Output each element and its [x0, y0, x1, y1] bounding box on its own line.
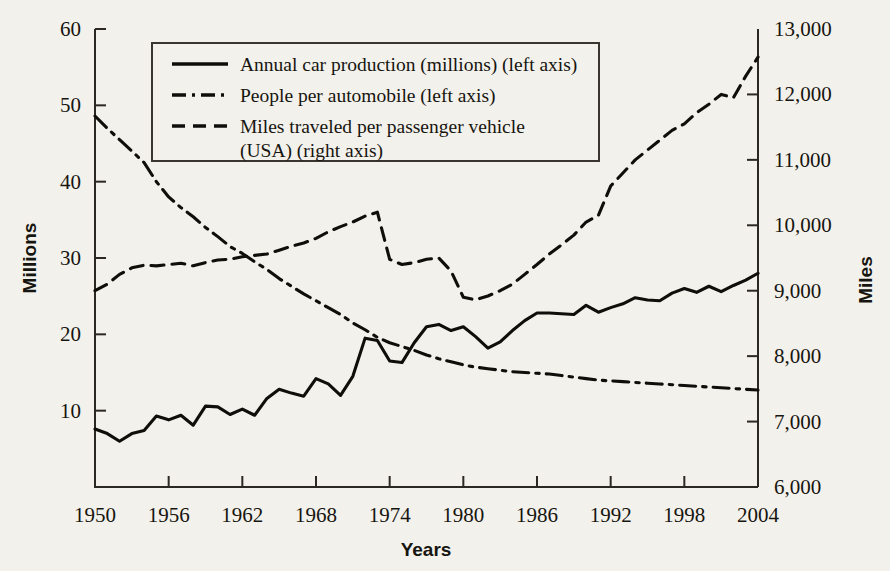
- y-right-tick-label: 11,000: [774, 148, 831, 172]
- y-right-tick-label: 13,000: [774, 17, 832, 41]
- legend-label-miles-traveled: Miles traveled per passenger vehicle: [240, 116, 525, 137]
- x-tick-label: 1950: [74, 503, 116, 527]
- y-axis-right-title: Miles: [855, 256, 876, 304]
- line-chart: 102030405060 6,0007,0008,0009,00010,0001…: [0, 0, 890, 571]
- x-axis-labels: 1950195619621968197419801986199219982004: [74, 503, 780, 527]
- x-tick-label: 1980: [442, 503, 484, 527]
- legend-label-car-production: Annual car production (millions) (left a…: [240, 54, 577, 76]
- y-right-tick-label: 8,000: [774, 344, 821, 368]
- y-axis-right-labels: 6,0007,0008,0009,00010,00011,00012,00013…: [774, 17, 832, 499]
- y-left-tick-label: 60: [60, 17, 81, 41]
- series-line-0: [95, 273, 758, 441]
- y-left-tick-label: 40: [60, 170, 81, 194]
- x-tick-label: 1986: [516, 503, 558, 527]
- y-left-tick-label: 30: [60, 246, 81, 270]
- chart-page: 102030405060 6,0007,0008,0009,00010,0001…: [0, 0, 890, 571]
- x-tick-label: 2004: [737, 503, 780, 527]
- x-tick-label: 1974: [369, 503, 412, 527]
- x-axis-ticks: [169, 476, 685, 487]
- x-tick-label: 1968: [295, 503, 337, 527]
- legend: Annual car production (millions) (left a…: [152, 43, 599, 162]
- y-axis-left-labels: 102030405060: [60, 17, 81, 423]
- y-right-tick-label: 12,000: [774, 82, 832, 106]
- x-tick-label: 1956: [148, 503, 190, 527]
- y-axis-right-ticks: [747, 94, 758, 421]
- y-left-tick-label: 20: [60, 322, 81, 346]
- x-tick-label: 1992: [590, 503, 632, 527]
- legend-label-miles-traveled-line2: (USA) (right axis): [240, 140, 383, 162]
- x-tick-label: 1962: [221, 503, 263, 527]
- x-tick-label: 1998: [663, 503, 705, 527]
- x-axis-title: Years: [401, 539, 452, 560]
- y-right-tick-label: 7,000: [774, 410, 821, 434]
- y-axis-left-title: Millions: [19, 223, 40, 294]
- y-right-tick-label: 10,000: [774, 213, 832, 237]
- y-right-tick-label: 9,000: [774, 279, 821, 303]
- legend-label-people-per-auto: People per automobile (left axis): [240, 85, 496, 107]
- y-left-tick-label: 50: [60, 93, 81, 117]
- y-right-tick-label: 6,000: [774, 475, 821, 499]
- y-left-tick-label: 10: [60, 399, 81, 423]
- y-axis-left-ticks: [95, 29, 106, 411]
